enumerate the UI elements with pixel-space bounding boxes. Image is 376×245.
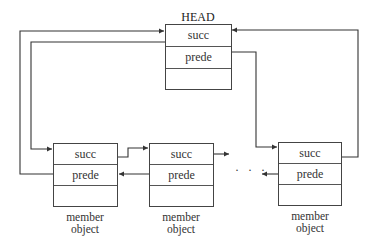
member2-caption: member object xyxy=(146,211,216,235)
member3-caption: member object xyxy=(275,210,345,234)
member1-caption: member object xyxy=(50,211,120,235)
member1-prede-field: prede xyxy=(54,165,117,186)
head-succ-to-member1-link xyxy=(31,42,170,149)
member1-caption-line2: object xyxy=(50,223,120,235)
member3-empty-field xyxy=(279,185,341,206)
member1-empty-field xyxy=(54,186,117,207)
head-title: HEAD xyxy=(165,10,231,25)
member-node-2: succ prede xyxy=(149,143,214,207)
member1-succ-field: succ xyxy=(54,144,117,165)
member3-caption-line1: member xyxy=(275,210,345,222)
member3-caption-line2: object xyxy=(275,222,345,234)
member3-succ-field: succ xyxy=(279,143,341,164)
member2-succ-field: succ xyxy=(150,144,213,165)
member-node-3: succ prede xyxy=(278,142,342,206)
head-succ-field: succ xyxy=(166,25,231,47)
member2-caption-line2: object xyxy=(146,223,216,235)
member-node-1: succ prede xyxy=(53,143,118,207)
member2-prede-field: prede xyxy=(150,165,213,186)
head-node: succ prede xyxy=(165,24,232,90)
ellipsis: · · · xyxy=(235,163,268,178)
head-prede-to-member3-link xyxy=(226,52,277,147)
member1-caption-line1: member xyxy=(50,211,120,223)
head-prede-field: prede xyxy=(166,47,231,69)
member3-prede-field: prede xyxy=(279,164,341,185)
member3-succ-to-head-link xyxy=(232,30,358,157)
head-empty-field xyxy=(166,69,231,90)
member2-empty-field xyxy=(150,186,213,207)
member2-caption-line1: member xyxy=(146,211,216,223)
